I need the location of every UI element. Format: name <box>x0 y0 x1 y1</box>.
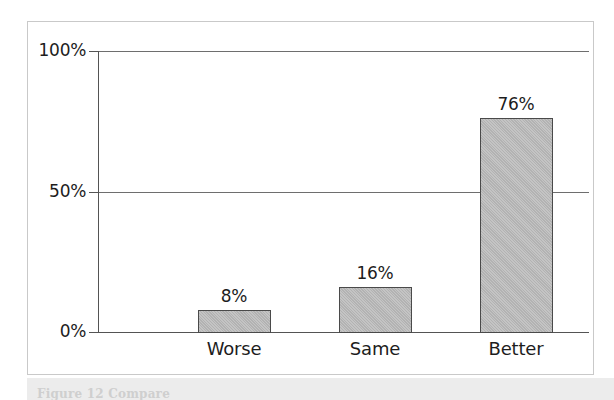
y-tick-mark-0 <box>89 332 98 333</box>
figure-caption-strip: Figure 12 Compare <box>27 378 614 400</box>
plot-area: 100% 50% 0% 8% 16% 76% Worse Same Better <box>28 22 595 376</box>
y-axis-tick-label-50: 50% <box>28 181 86 201</box>
y-axis-tick-label-100: 100% <box>28 40 86 60</box>
gridline-100 <box>98 51 589 52</box>
x-axis-category-label-better: Better <box>456 338 576 359</box>
x-axis-category-label-same: Same <box>315 338 435 359</box>
bar-value-label-worse: 8% <box>184 286 284 306</box>
y-tick-mark-50 <box>89 192 98 193</box>
x-axis-category-label-worse: Worse <box>174 338 294 359</box>
y-tick-mark-100 <box>89 51 98 52</box>
bar-same[interactable] <box>339 287 412 333</box>
bar-better[interactable] <box>480 118 553 333</box>
bar-value-label-same: 16% <box>325 263 425 283</box>
bar-worse[interactable] <box>198 310 271 333</box>
figure-frame: 100% 50% 0% 8% 16% 76% Worse Same Better <box>27 21 594 375</box>
y-axis-line <box>98 51 99 333</box>
figure-caption-text: Figure 12 Compare <box>37 387 170 400</box>
y-axis-tick-label-0: 0% <box>28 321 86 341</box>
scanned-page-background: 100% 50% 0% 8% 16% 76% Worse Same Better… <box>0 0 614 400</box>
bar-value-label-better: 76% <box>466 94 566 114</box>
